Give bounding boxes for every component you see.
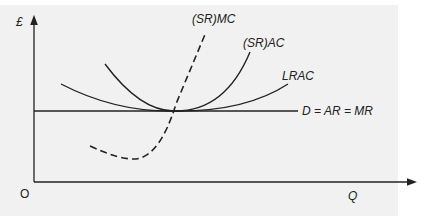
y-axis-label: £ bbox=[15, 15, 23, 29]
origin-label: O bbox=[20, 187, 29, 201]
lrac-label: LRAC bbox=[282, 69, 314, 83]
srmc-label: (SR)MC bbox=[192, 12, 236, 26]
srmc-curve bbox=[90, 32, 206, 159]
x-axis-label: Q bbox=[348, 189, 357, 203]
cost-curves-diagram: £ O Q (SR)MC (SR)AC LRAC D = AR = MR bbox=[0, 0, 440, 216]
srac-label: (SR)AC bbox=[243, 36, 285, 50]
demand-label: D = AR = MR bbox=[302, 104, 373, 118]
